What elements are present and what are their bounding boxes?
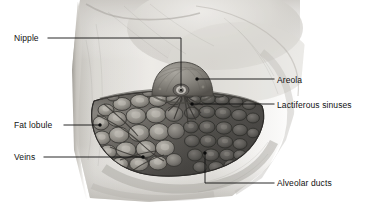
- nipple-opening: [180, 89, 183, 92]
- label-nipple: Nipple: [14, 33, 39, 43]
- leader-dot-lactiferous-sinuses: [190, 102, 193, 105]
- label-fat-lobule: Fat lobule: [14, 120, 52, 130]
- label-lactiferous-sinuses: Lactiferous sinuses: [277, 100, 352, 110]
- anatomy-figure: Nipple Fat lobule Veins Areola Lactifero…: [0, 0, 371, 205]
- label-areola: Areola: [277, 75, 302, 85]
- label-veins: Veins: [14, 152, 35, 162]
- label-alveolar-ducts: Alveolar ducts: [277, 178, 332, 188]
- leader-dot-areola: [195, 77, 198, 80]
- leader-dot-alveolar-ducts: [203, 151, 206, 154]
- leader-dot-fat-lobule: [98, 123, 101, 126]
- leader-dot-veins: [141, 155, 144, 158]
